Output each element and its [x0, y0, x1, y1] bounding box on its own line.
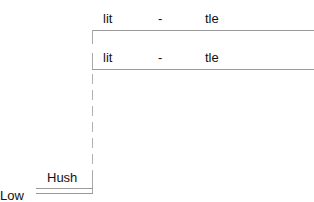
row-2-col-2: -	[158, 51, 162, 65]
vertical-bottom-segment	[92, 172, 93, 194]
row-1-left-tick	[92, 30, 93, 44]
row-2-underline	[92, 69, 314, 70]
hush-underline	[36, 188, 93, 189]
row-1-underline	[92, 30, 314, 31]
row-2-col-1: lit	[103, 51, 112, 65]
row-1-col-1: lit	[103, 12, 112, 26]
row-2-left-tick	[92, 53, 93, 69]
row-1-col-2: -	[158, 12, 162, 26]
row-2-col-3: tle	[205, 51, 219, 65]
vertical-dashed-connector	[92, 74, 93, 174]
label-hush: Hush	[47, 171, 77, 185]
label-low: Low	[0, 189, 24, 202]
row-1-col-3: tle	[205, 12, 219, 26]
low-line	[36, 193, 93, 194]
